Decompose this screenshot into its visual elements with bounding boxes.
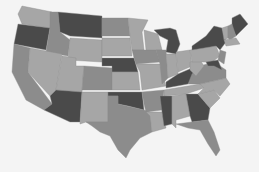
state-MT[interactable] [58,12,102,38]
state-OH[interactable] [176,50,192,72]
state-MA[interactable] [224,38,240,46]
state-NY[interactable] [192,26,226,50]
state-FL[interactable] [176,120,220,156]
map-svg [0,0,259,172]
state-NJ[interactable] [218,50,226,64]
state-SD[interactable] [102,38,132,56]
state-IA[interactable] [132,50,160,64]
state-ND[interactable] [102,18,130,36]
us-choropleth-map [0,0,259,172]
state-KS[interactable] [112,72,140,90]
state-NM[interactable] [80,92,108,124]
state-IN[interactable] [166,54,178,78]
state-CO[interactable] [82,66,112,90]
